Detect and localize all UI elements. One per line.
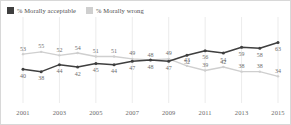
chart-container: % Morally acceptable % Morally wrong 535… [0, 0, 291, 125]
data-point [149, 59, 152, 62]
data-label: 38 [257, 63, 263, 69]
x-tick-label-2009: 2009 [162, 109, 175, 117]
data-label: 52 [56, 47, 62, 53]
x-tick-label-2011: 2011 [199, 109, 212, 117]
data-label: 47 [166, 65, 172, 71]
data-label: 44 [56, 68, 62, 74]
data-label: 47 [129, 65, 135, 71]
data-label: 51 [93, 48, 99, 54]
data-point [240, 70, 242, 72]
legend-label-morally-wrong: % Morally wrong [96, 7, 144, 14]
data-label: 49 [166, 50, 172, 56]
x-tick-label-2015: 2015 [271, 109, 284, 117]
data-label: 54 [75, 45, 81, 51]
legend-label-morally-acceptable: % Morally acceptable [17, 7, 76, 14]
data-point [186, 65, 188, 67]
data-point [131, 60, 134, 63]
square-swatch-icon [86, 7, 93, 14]
data-point [95, 55, 97, 57]
legend-item-morally-wrong: % Morally wrong [86, 7, 144, 14]
data-point [113, 63, 116, 66]
x-tick-label-2007: 2007 [126, 109, 139, 117]
data-label: 59 [239, 51, 245, 57]
data-label: 55 [38, 43, 44, 49]
x-tick-label-2005: 2005 [89, 109, 102, 117]
data-point [40, 70, 43, 73]
data-point [259, 70, 261, 72]
data-point [76, 52, 78, 54]
data-point [204, 69, 206, 71]
data-point [40, 51, 42, 53]
chart-legend: % Morally acceptable % Morally wrong [7, 4, 144, 16]
data-label: 58 [257, 52, 263, 58]
data-label: 48 [148, 52, 154, 58]
data-label: 38 [38, 75, 44, 81]
x-tick-label-2003: 2003 [53, 109, 66, 117]
data-label: 51 [111, 48, 117, 54]
data-label: 34 [275, 68, 281, 74]
data-label: 39 [202, 62, 208, 68]
data-label: 45 [93, 67, 99, 73]
data-label: 42 [75, 71, 81, 77]
square-swatch-icon [7, 7, 14, 14]
x-axis: 20012003200520072009201120132015 [1, 103, 291, 125]
data-label: 56 [202, 54, 208, 60]
data-point [277, 41, 280, 44]
data-point [240, 46, 243, 49]
data-label: 44 [111, 68, 117, 74]
data-label: 63 [275, 46, 281, 52]
data-point [113, 55, 115, 57]
data-point [222, 52, 225, 55]
data-point [94, 62, 97, 65]
data-point [22, 53, 24, 55]
x-tick-label-2013: 2013 [235, 109, 248, 117]
legend-item-morally-acceptable: % Morally acceptable [7, 7, 76, 14]
data-point [204, 49, 207, 52]
data-point [58, 63, 61, 66]
data-point [258, 47, 261, 50]
x-tick-label-2001: 2001 [16, 109, 29, 117]
data-point [22, 68, 25, 71]
data-point [277, 75, 279, 77]
line-chart-svg: 5355525451514948494339423838344038444245… [1, 17, 291, 103]
data-point [76, 66, 79, 69]
data-label: 40 [20, 73, 26, 79]
data-label: 53 [20, 46, 26, 52]
plot-area: 5355525451514948494339423838344038444245… [1, 17, 291, 103]
data-label: 48 [148, 64, 154, 70]
data-label: 54 [220, 57, 226, 63]
data-label: 52 [184, 59, 190, 65]
data-point [58, 54, 60, 56]
data-point [185, 54, 188, 57]
data-point [167, 60, 170, 63]
data-point [222, 66, 224, 68]
data-label: 49 [129, 50, 135, 56]
data-label: 38 [239, 63, 245, 69]
